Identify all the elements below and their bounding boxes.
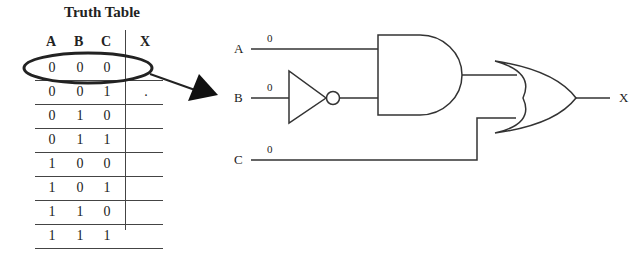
- or-gate: [495, 61, 576, 133]
- highlight-ellipse: [24, 53, 152, 83]
- input-label-c: C: [234, 152, 243, 168]
- and-gate: [378, 35, 462, 115]
- input-value-c: 0: [267, 143, 273, 155]
- input-value-a: 0: [267, 32, 273, 44]
- input-label-a: A: [234, 41, 243, 57]
- wire-c: [251, 118, 516, 160]
- not-gate: [289, 71, 340, 123]
- diagram-canvas: [0, 0, 643, 257]
- arrow-icon: [150, 74, 218, 101]
- input-label-b: B: [234, 90, 243, 106]
- input-value-b: 0: [267, 81, 273, 93]
- output-label-x: X: [619, 90, 628, 106]
